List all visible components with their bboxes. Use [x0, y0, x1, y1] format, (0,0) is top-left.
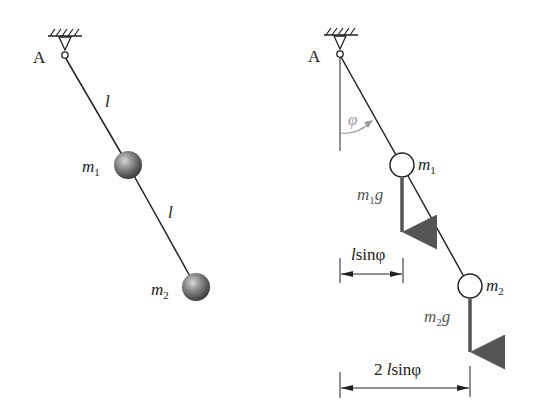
- right-figure: φ A m1 m2 m1g m2g lsinφ: [308, 28, 504, 398]
- dimension2-label: 2 lsinφ: [374, 360, 421, 379]
- rod-2: [128, 165, 196, 287]
- mass-circle-2: [458, 274, 482, 298]
- rod-2: [408, 176, 463, 275]
- pivot-label: A: [308, 47, 321, 66]
- rod-1: [65, 57, 128, 165]
- force1-label: m1g: [357, 185, 383, 206]
- rod-1: [341, 57, 396, 155]
- angle-label: φ: [348, 110, 357, 129]
- pivot-hinge-icon: [62, 52, 68, 58]
- mass2-label: m2: [486, 276, 504, 297]
- mass-circle-1: [390, 153, 414, 177]
- pivot-label: A: [33, 48, 46, 67]
- mass1-label: m1: [82, 157, 100, 178]
- left-figure: A l l m1 m2: [33, 29, 210, 301]
- force2-label: m2g: [424, 307, 450, 328]
- fixed-support-icon: [324, 28, 358, 49]
- mass1-label: m1: [418, 155, 436, 176]
- dimension1-label: lsinφ: [351, 245, 386, 264]
- mass2-label: m2: [151, 280, 169, 301]
- mass-ball-2: [182, 273, 210, 301]
- segment1-length-label: l: [105, 92, 110, 111]
- fixed-support-icon: [48, 29, 82, 50]
- pivot-hinge-icon: [337, 51, 343, 57]
- mass-ball-1: [114, 151, 142, 179]
- double-pendulum-diagram: A l l m1 m2 φ: [0, 0, 538, 413]
- segment2-length-label: l: [168, 203, 173, 222]
